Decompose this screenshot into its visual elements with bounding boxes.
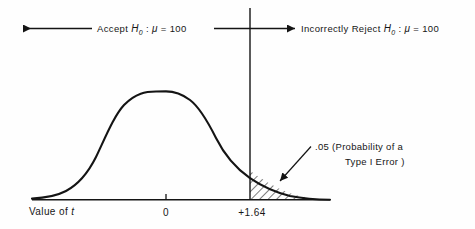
tick-label-critical: +1.64 xyxy=(238,207,265,218)
reject-label-separator: : xyxy=(396,23,405,34)
normal-curve xyxy=(32,91,330,199)
accept-label-prefix: Accept xyxy=(97,23,128,34)
figure-canvas: Accept H0 : μ = 100 Incorrectly Reject H… xyxy=(0,0,475,229)
accept-region-label: Accept H0 : μ = 100 xyxy=(97,23,187,36)
alpha-annotation-line2: Type I Error ) xyxy=(345,156,405,167)
reject-label-equals: = xyxy=(410,23,422,34)
accept-label-equals: = xyxy=(158,23,170,34)
accept-label-value: 100 xyxy=(170,23,187,34)
x-axis-variable: t xyxy=(71,206,75,217)
x-axis-label: Value of t xyxy=(29,206,75,217)
accept-label-separator: : xyxy=(143,23,152,34)
alpha-annotation-line1: .05 (Probability of a xyxy=(315,141,404,152)
reject-region-label: Incorrectly Reject H0 : μ = 100 xyxy=(301,23,439,36)
x-axis-label-text: Value of xyxy=(29,206,68,217)
reject-label-prefix: Incorrectly Reject xyxy=(301,23,381,34)
reject-label-value: 100 xyxy=(422,23,439,34)
annotation-leader-line xyxy=(280,147,311,182)
tick-label-zero: 0 xyxy=(163,207,169,218)
hypothesis-test-figure: Accept H0 : μ = 100 Incorrectly Reject H… xyxy=(0,0,475,229)
